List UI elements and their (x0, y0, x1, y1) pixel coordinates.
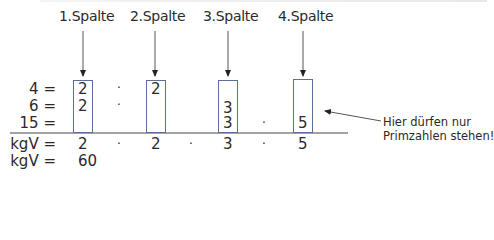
kgv-final-value: 60 (78, 152, 97, 170)
annotation-line-2: Primzahlen stehen! (383, 129, 494, 143)
arrow-pointer-icon (325, 111, 381, 121)
row-label-6: 6 = (0, 97, 56, 115)
cell: 2 (78, 97, 88, 115)
row-label-15: 15 = (0, 114, 56, 132)
result-cell: 3 (223, 135, 233, 153)
cell: 2 (78, 80, 88, 98)
kgv-label: kgV = (0, 135, 56, 153)
annotation-note: Hier dürfen nur Primzahlen stehen! (383, 115, 494, 143)
multiply-dot: · (262, 137, 266, 151)
kgv-final-label: kgV = (0, 152, 56, 170)
row-label-4: 4 = (0, 80, 56, 98)
multiply-dot: · (117, 137, 121, 151)
multiply-dot: · (117, 81, 121, 95)
cell: 5 (298, 114, 308, 132)
result-cell: 5 (298, 135, 308, 153)
cell: 2 (151, 80, 161, 98)
annotation-line-1: Hier dürfen nur (383, 115, 494, 129)
multiply-dot: · (262, 116, 266, 130)
cell: 3 (223, 114, 233, 132)
result-cell: 2 (78, 135, 88, 153)
result-cell: 2 (151, 135, 161, 153)
multiply-dot: · (117, 98, 121, 112)
multiply-dot: · (189, 137, 193, 151)
